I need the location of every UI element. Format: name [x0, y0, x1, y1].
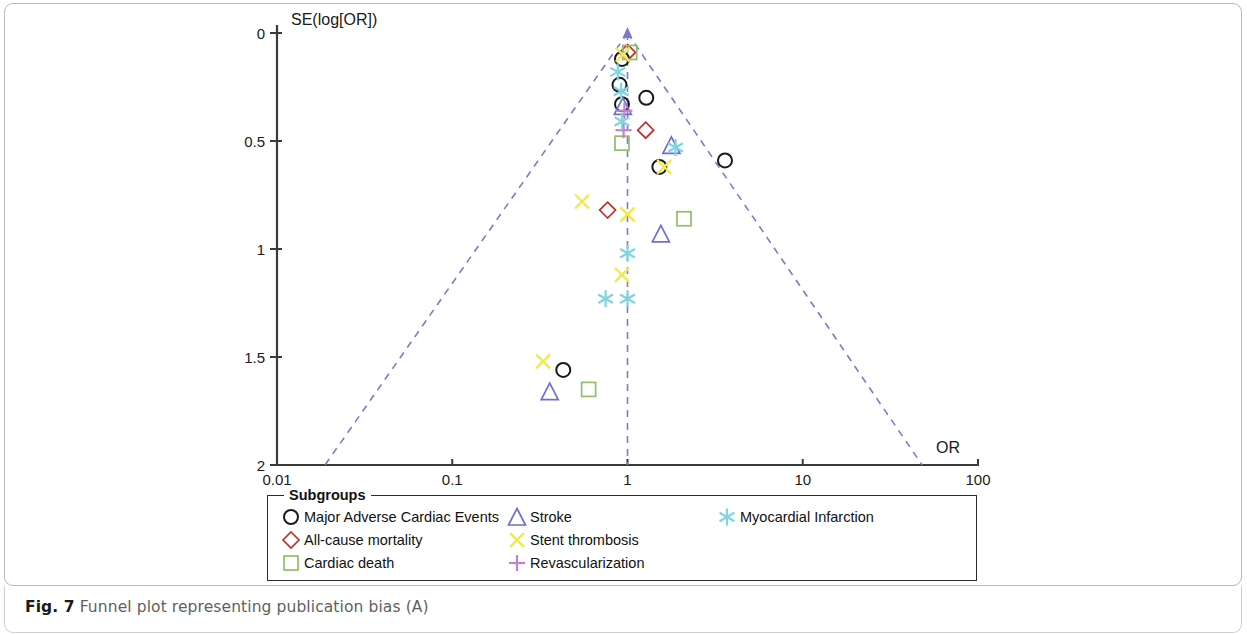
- marker-circle: [639, 91, 653, 105]
- apex-marker: [623, 27, 633, 38]
- marker-circle: [556, 363, 570, 377]
- marker-diamond: [283, 532, 299, 548]
- legend-item-label: Cardiac death: [304, 555, 394, 571]
- legend-marker-plus: [505, 552, 529, 574]
- legend-column-3: Myocardial Infarction: [714, 505, 974, 528]
- legend: Subgroups Major Adverse Cardiac EventsAl…: [267, 495, 977, 581]
- legend-column-2: StrokeStent thrombosisRevascularization: [504, 505, 704, 574]
- marker-triangle: [509, 508, 526, 525]
- funnel-left-boundary: [325, 33, 627, 465]
- x-tick-label: 100: [965, 471, 990, 488]
- marker-circle: [284, 510, 298, 524]
- legend-item-label: Myocardial Infarction: [740, 509, 874, 525]
- legend-marker-cell: [278, 529, 304, 551]
- marker-circle: [718, 153, 732, 167]
- marker-square: [677, 212, 691, 226]
- legend-marker-cell: [504, 529, 530, 551]
- legend-item[interactable]: Major Adverse Cardiac Events: [278, 505, 508, 528]
- caption-text-line: Fig. 7 Funnel plot representing publicat…: [25, 598, 429, 616]
- caption-body: Funnel plot representing publication bia…: [80, 598, 429, 616]
- marker-square: [284, 556, 298, 570]
- legend-marker-diamond: [279, 529, 303, 551]
- legend-item-label: Stent thrombosis: [530, 532, 639, 548]
- x-axis-label: OR: [936, 439, 960, 456]
- legend-marker-cell: [714, 506, 740, 528]
- legend-marker-asterisk: [715, 506, 739, 528]
- series-cross-x: [536, 48, 671, 369]
- y-tick-label: 0.5: [244, 133, 265, 150]
- x-tick-label: 0.1: [442, 471, 463, 488]
- legend-item[interactable]: All-cause mortality: [278, 528, 508, 551]
- marker-diamond: [638, 122, 654, 138]
- legend-marker-cell: [504, 506, 530, 528]
- funnel-right-boundary: [628, 33, 923, 465]
- legend-marker-cross-x: [505, 529, 529, 551]
- series-square: [582, 45, 691, 396]
- legend-marker-circle: [279, 506, 303, 528]
- caption-label: Fig. 7: [25, 598, 75, 616]
- figure-caption: Fig. 7 Funnel plot representing publicat…: [4, 586, 1242, 633]
- legend-marker-cell: [278, 552, 304, 574]
- y-axis-label: SE(log[OR]): [291, 11, 377, 28]
- legend-marker-triangle: [505, 506, 529, 528]
- legend-item[interactable]: Stent thrombosis: [504, 528, 704, 551]
- y-tick-label: 1: [257, 241, 265, 258]
- legend-item-label: Major Adverse Cardiac Events: [304, 509, 499, 525]
- series-triangle: [541, 98, 680, 400]
- marker-diamond: [600, 202, 616, 218]
- series-circle: [556, 52, 732, 377]
- legend-item[interactable]: Myocardial Infarction: [714, 505, 974, 528]
- legend-marker-square: [279, 552, 303, 574]
- legend-marker-cell: [504, 552, 530, 574]
- legend-marker-cell: [278, 506, 304, 528]
- y-tick-label: 1.5: [244, 349, 265, 366]
- x-tick-label: 0.01: [262, 471, 291, 488]
- y-tick-label: 2: [257, 457, 265, 474]
- legend-item[interactable]: Revascularization: [504, 551, 704, 574]
- marker-triangle: [541, 383, 558, 400]
- figure-page: 0.010.111010000.511.52SE(log[OR])OR Subg…: [0, 0, 1247, 634]
- legend-item-label: All-cause mortality: [304, 532, 422, 548]
- legend-item[interactable]: Cardiac death: [278, 551, 508, 574]
- marker-triangle: [652, 225, 669, 242]
- marker-square: [582, 382, 596, 396]
- legend-item[interactable]: Stroke: [504, 505, 704, 528]
- x-tick-label: 1: [623, 471, 631, 488]
- legend-title: Subgroups: [284, 487, 371, 503]
- legend-column-1: Major Adverse Cardiac EventsAll-cause mo…: [278, 505, 508, 574]
- legend-item-label: Revascularization: [530, 555, 644, 571]
- y-tick-label: 0: [257, 25, 265, 42]
- legend-item-label: Stroke: [530, 509, 572, 525]
- x-tick-label: 10: [794, 471, 811, 488]
